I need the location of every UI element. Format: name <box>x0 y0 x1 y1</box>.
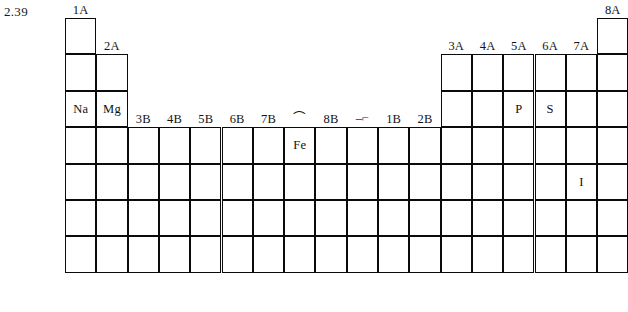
element-cell-empty[interactable] <box>472 54 503 90</box>
element-cell-empty[interactable] <box>472 236 503 272</box>
element-cell-empty[interactable] <box>159 236 190 272</box>
group-label-1b: 1B <box>378 113 409 126</box>
element-cell-empty[interactable] <box>222 164 253 200</box>
element-cell-empty[interactable] <box>503 54 534 90</box>
element-symbol: P <box>515 103 522 116</box>
element-cell-empty[interactable] <box>441 236 472 272</box>
element-cell-empty[interactable] <box>378 236 409 272</box>
element-cell-empty[interactable] <box>441 200 472 236</box>
element-cell-empty[interactable] <box>96 127 127 163</box>
page-edge-artifact <box>70 306 370 312</box>
element-cell-empty[interactable] <box>65 164 96 200</box>
element-cell-empty[interactable] <box>597 18 628 54</box>
element-cell-empty[interactable] <box>253 200 284 236</box>
element-cell-p[interactable]: P <box>503 91 534 127</box>
element-cell-empty[interactable] <box>347 164 378 200</box>
group-label-4b: 4B <box>159 113 190 126</box>
element-cell-empty[interactable] <box>253 127 284 163</box>
element-cell-empty[interactable] <box>190 164 221 200</box>
element-cell-empty[interactable] <box>503 164 534 200</box>
element-cell-empty[interactable] <box>347 236 378 272</box>
element-cell-empty[interactable] <box>566 200 597 236</box>
element-cell-empty[interactable] <box>253 236 284 272</box>
element-cell-empty[interactable] <box>190 200 221 236</box>
element-cell-empty[interactable] <box>65 200 96 236</box>
element-cell-empty[interactable] <box>597 164 628 200</box>
element-cell-mg[interactable]: Mg <box>96 91 127 127</box>
element-cell-empty[interactable] <box>96 54 127 90</box>
element-cell-empty[interactable] <box>315 200 346 236</box>
element-cell-empty[interactable] <box>597 200 628 236</box>
element-cell-empty[interactable] <box>378 164 409 200</box>
element-cell-empty[interactable] <box>65 54 96 90</box>
element-cell-empty[interactable] <box>597 236 628 272</box>
group-label-7b: 7B <box>253 113 284 126</box>
element-cell-empty[interactable] <box>503 236 534 272</box>
element-cell-empty[interactable] <box>128 164 159 200</box>
element-cell-empty[interactable] <box>222 127 253 163</box>
element-cell-empty[interactable] <box>472 200 503 236</box>
element-cell-empty[interactable] <box>284 236 315 272</box>
element-cell-empty[interactable] <box>222 236 253 272</box>
element-cell-empty[interactable] <box>472 91 503 127</box>
element-cell-s[interactable]: S <box>535 91 566 127</box>
element-cell-empty[interactable] <box>535 54 566 90</box>
element-cell-empty[interactable] <box>535 164 566 200</box>
element-cell-empty[interactable] <box>409 200 440 236</box>
element-cell-empty[interactable] <box>597 54 628 90</box>
element-cell-empty[interactable] <box>472 127 503 163</box>
element-cell-empty[interactable] <box>441 54 472 90</box>
element-cell-empty[interactable] <box>65 18 96 54</box>
element-cell-empty[interactable] <box>315 127 346 163</box>
element-cell-empty[interactable] <box>284 164 315 200</box>
element-cell-empty[interactable] <box>96 200 127 236</box>
element-cell-empty[interactable] <box>96 236 127 272</box>
group-label-7a: 7A <box>566 40 597 53</box>
element-cell-empty[interactable] <box>566 54 597 90</box>
element-cell-empty[interactable] <box>597 127 628 163</box>
group-label-1a: 1A <box>65 4 96 17</box>
element-cell-empty[interactable] <box>378 200 409 236</box>
element-cell-empty[interactable] <box>128 127 159 163</box>
element-cell-empty[interactable] <box>159 127 190 163</box>
element-cell-empty[interactable] <box>253 164 284 200</box>
element-cell-empty[interactable] <box>535 127 566 163</box>
element-cell-empty[interactable] <box>441 164 472 200</box>
element-cell-empty[interactable] <box>315 164 346 200</box>
element-cell-empty[interactable] <box>347 127 378 163</box>
element-cell-empty[interactable] <box>378 127 409 163</box>
element-cell-empty[interactable] <box>65 236 96 272</box>
element-cell-i[interactable]: I <box>566 164 597 200</box>
element-cell-empty[interactable] <box>441 91 472 127</box>
element-cell-empty[interactable] <box>441 127 472 163</box>
element-cell-empty[interactable] <box>597 91 628 127</box>
element-cell-empty[interactable] <box>159 200 190 236</box>
element-cell-empty[interactable] <box>284 200 315 236</box>
element-cell-empty[interactable] <box>190 127 221 163</box>
element-cell-empty[interactable] <box>535 236 566 272</box>
element-cell-empty[interactable] <box>409 236 440 272</box>
group-label-8a: 8A <box>597 4 628 17</box>
element-cell-empty[interactable] <box>535 200 566 236</box>
element-cell-empty[interactable] <box>128 200 159 236</box>
element-cell-empty[interactable] <box>65 127 96 163</box>
element-cell-empty[interactable] <box>315 236 346 272</box>
element-cell-empty[interactable] <box>566 91 597 127</box>
element-cell-empty[interactable] <box>222 200 253 236</box>
element-cell-empty[interactable] <box>472 164 503 200</box>
element-cell-empty[interactable] <box>503 200 534 236</box>
element-cell-empty[interactable] <box>190 236 221 272</box>
element-cell-empty[interactable] <box>96 164 127 200</box>
element-cell-empty[interactable] <box>159 164 190 200</box>
element-cell-empty[interactable] <box>409 127 440 163</box>
element-cell-na[interactable]: Na <box>65 91 96 127</box>
element-symbol: Fe <box>293 139 306 152</box>
element-cell-fe[interactable]: Fe <box>284 127 315 163</box>
element-symbol: S <box>547 103 554 116</box>
element-cell-empty[interactable] <box>347 200 378 236</box>
element-cell-empty[interactable] <box>128 236 159 272</box>
element-cell-empty[interactable] <box>566 236 597 272</box>
element-cell-empty[interactable] <box>409 164 440 200</box>
element-cell-empty[interactable] <box>503 127 534 163</box>
element-cell-empty[interactable] <box>566 127 597 163</box>
